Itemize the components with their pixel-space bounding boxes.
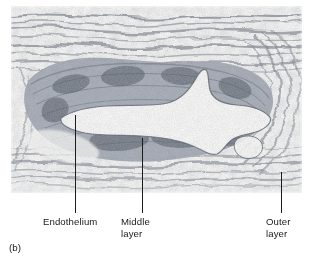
leader-line-outer-layer (281, 172, 282, 213)
label-endothelium: Endothelium (43, 216, 97, 228)
micrograph-image (11, 6, 302, 193)
figure-panel: Endothelium Middle layer Outer layer (b) (0, 0, 312, 264)
label-outer-layer: Outer layer (266, 216, 291, 239)
film-grain (11, 6, 302, 193)
label-middle-layer: Middle layer (121, 216, 150, 239)
leader-line-middle-layer (142, 138, 143, 213)
leader-line-endothelium (75, 115, 76, 213)
micrograph-svg (11, 6, 302, 193)
figure-panel-caption: (b) (9, 242, 21, 253)
